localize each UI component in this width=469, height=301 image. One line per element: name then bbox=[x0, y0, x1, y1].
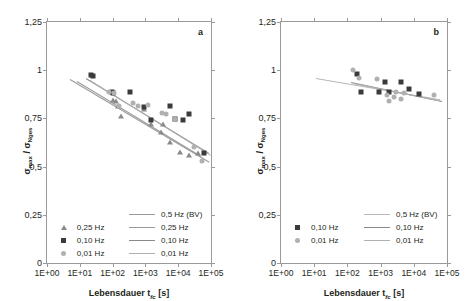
data-point-circle bbox=[357, 76, 362, 81]
figure-container: σmax / σNges a 00,250,50,7511,251E+001E+… bbox=[0, 0, 469, 301]
x-tick-mark bbox=[80, 263, 81, 267]
x-tick-mark-top bbox=[347, 18, 348, 22]
x-tick-mark-top bbox=[47, 18, 48, 22]
data-point-triangle bbox=[186, 153, 192, 158]
data-point-triangle bbox=[160, 122, 166, 127]
legend-line-entry: 0,25 Hz bbox=[129, 223, 189, 232]
plot-area-b: b 00,250,50,7511,251E+001E+011E+021E+031… bbox=[280, 21, 448, 264]
y-tick-mark-right bbox=[211, 70, 215, 71]
y-tick-mark-right bbox=[447, 215, 451, 216]
legend-line-swatch bbox=[364, 227, 390, 228]
data-point-square bbox=[149, 118, 154, 123]
y-tick-mark bbox=[277, 22, 281, 23]
x-tick-label: 1E+05 bbox=[199, 268, 224, 278]
y-tick-mark bbox=[277, 215, 281, 216]
y-tick-mark bbox=[277, 167, 281, 168]
legend-marker-swatch bbox=[57, 251, 71, 256]
x-tick-label: 1E+00 bbox=[35, 268, 60, 278]
x-tick-mark bbox=[113, 263, 114, 267]
y-tick-label: 1,25 bbox=[24, 17, 42, 27]
x-tick-label: 1E+02 bbox=[335, 268, 360, 278]
data-point-circle bbox=[145, 102, 150, 107]
x-axis-title-unit-a: [s] bbox=[156, 288, 170, 298]
y-tick-mark-right bbox=[211, 215, 215, 216]
x-tick-mark bbox=[347, 263, 348, 267]
x-tick-label: 1E+03 bbox=[133, 268, 158, 278]
legend-marker-entry: 0,10 Hz bbox=[291, 223, 339, 232]
x-axis-title-b: Lebensdauer tfc [s] bbox=[280, 288, 448, 300]
x-tick-mark bbox=[314, 263, 315, 267]
x-tick-label: 1E+01 bbox=[302, 268, 327, 278]
legend-marker-glyph bbox=[61, 238, 66, 243]
y-tick-label: 0,75 bbox=[258, 113, 276, 123]
legend-marker-glyph bbox=[61, 251, 66, 256]
y-tick-label: 1 bbox=[37, 65, 42, 75]
panel-label-b: b bbox=[434, 27, 440, 37]
x-tick-mark-top bbox=[80, 18, 81, 22]
y-tick-mark bbox=[43, 118, 47, 119]
data-point-square bbox=[359, 90, 364, 95]
data-point-circle bbox=[387, 99, 392, 104]
data-point-circle bbox=[111, 90, 116, 95]
legend-marker-entry: 0,01 Hz bbox=[57, 249, 105, 258]
x-tick-mark-top bbox=[381, 18, 382, 22]
data-point-circle bbox=[431, 92, 436, 97]
legend-marker-swatch bbox=[57, 238, 71, 243]
legend-marker-glyph bbox=[295, 238, 300, 243]
x-tick-mark bbox=[211, 263, 212, 267]
data-point-square bbox=[406, 87, 411, 92]
legend-line-entry: 0,5 Hz (BV) bbox=[364, 210, 437, 219]
y-tick-label: 0,5 bbox=[263, 162, 276, 172]
x-axis-title-text-a: Lebensdauer t bbox=[89, 288, 151, 298]
data-point-square bbox=[383, 79, 388, 84]
data-point-triangle bbox=[167, 139, 173, 144]
data-point-square bbox=[187, 111, 192, 116]
legend-marker-swatch bbox=[291, 238, 305, 243]
legend-line-swatch bbox=[364, 240, 390, 241]
data-point-square bbox=[91, 73, 96, 78]
legend-line-label: 0,25 Hz bbox=[161, 223, 189, 232]
data-point-circle bbox=[173, 117, 178, 122]
data-point-circle bbox=[191, 145, 196, 150]
x-tick-label: 1E+02 bbox=[100, 268, 125, 278]
data-point-triangle bbox=[158, 129, 164, 134]
legend-marker-label: 0,10 Hz bbox=[311, 223, 339, 232]
x-tick-mark-top bbox=[447, 18, 448, 22]
data-point-circle bbox=[392, 94, 397, 99]
chart-panel-b: σmax / σNges b 00,250,50,7511,251E+001E+… bbox=[235, 0, 469, 301]
y-tick-mark bbox=[43, 22, 47, 23]
legend-line-label: 0,01 Hz bbox=[161, 249, 189, 258]
x-axis-title-text-b: Lebensdauer t bbox=[324, 288, 386, 298]
x-tick-mark-top bbox=[178, 18, 179, 22]
y-tick-label: 0,25 bbox=[258, 210, 276, 220]
y-tick-label: 0,5 bbox=[29, 162, 42, 172]
data-point-circle bbox=[402, 91, 407, 96]
legend-marker-glyph bbox=[295, 225, 300, 230]
x-tick-label: 1E+04 bbox=[401, 268, 426, 278]
x-tick-mark-top bbox=[281, 18, 282, 22]
x-tick-mark bbox=[47, 263, 48, 267]
panel-label-a: a bbox=[198, 27, 203, 37]
legend-line-swatch bbox=[129, 227, 155, 228]
y-tick-mark bbox=[277, 118, 281, 119]
x-tick-mark bbox=[178, 263, 179, 267]
data-point-circle bbox=[351, 68, 356, 73]
y-tick-mark bbox=[43, 70, 47, 71]
y-tick-label: 0 bbox=[271, 258, 276, 268]
legend-line-swatch bbox=[129, 214, 155, 215]
data-point-square bbox=[167, 104, 172, 109]
data-point-circle bbox=[136, 103, 141, 108]
data-point-circle bbox=[199, 158, 204, 163]
legend-line-label: 0,01 Hz bbox=[396, 236, 424, 245]
x-tick-mark-top bbox=[113, 18, 114, 22]
x-tick-mark-top bbox=[211, 18, 212, 22]
legend-line-entry: 0,01 Hz bbox=[129, 249, 189, 258]
legend-marker-swatch bbox=[291, 225, 305, 230]
data-point-triangle bbox=[118, 114, 124, 119]
x-tick-mark bbox=[414, 263, 415, 267]
x-tick-label: 1E+05 bbox=[435, 268, 460, 278]
data-point-circle bbox=[117, 104, 122, 109]
legend-marker-label: 0,01 Hz bbox=[311, 236, 339, 245]
data-point-square bbox=[377, 89, 382, 94]
data-point-circle bbox=[399, 96, 404, 101]
